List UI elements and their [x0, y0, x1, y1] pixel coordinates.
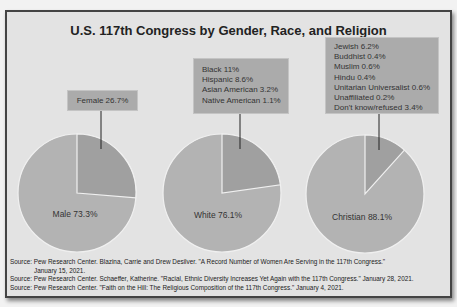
religion-label-box: Jewish 6.2% Buddhist 0.4% Muslim 0.6% Hi…: [325, 37, 439, 114]
source-line-2: Source: Pew Research Center. Schaeffer, …: [10, 275, 414, 284]
native-american-label: Native American 1.1%: [202, 96, 288, 106]
female-label-box: Female 26.7%: [67, 90, 138, 111]
race-pie: [163, 114, 281, 252]
buddhist-label: Buddhist 0.4%: [334, 52, 438, 62]
white-label: White 76.1%: [194, 210, 242, 220]
nonwhite-slice: [222, 134, 280, 193]
muslim-label: Muslim 0.6%: [334, 62, 438, 72]
asian-american-label: Asian American 3.2%: [202, 85, 288, 95]
source-line-3: Source: Pew Research Center. "Faith on t…: [10, 284, 414, 293]
religion-pie: [306, 114, 424, 253]
source-line-1: Source: Pew Research Center. Blazina, Ca…: [10, 258, 414, 267]
source-line-1-cont: January 15, 2021.: [10, 267, 414, 276]
female-label: Female 26.7%: [77, 96, 129, 105]
race-label-box: Black 11% Hispanic 8.6% Asian American 3…: [193, 58, 289, 114]
female-slice: [77, 134, 136, 198]
hindu-label: Hindu 0.4%: [334, 73, 438, 83]
jewish-label: Jewish 6.2%: [334, 42, 438, 52]
gender-pie: [18, 111, 136, 252]
unaffiliated-label: Unaffiliated 0.2%: [334, 93, 438, 103]
unitarian-label: Unitarian Universalist 0.6%: [334, 83, 438, 93]
dont-know-label: Don't know/refused 3.4%: [334, 103, 438, 113]
christian-label: Christian 88.1%: [332, 212, 392, 222]
male-label: Male 73.3%: [53, 209, 98, 219]
hispanic-label: Hispanic 8.6%: [202, 75, 288, 85]
sources: Source: Pew Research Center. Blazina, Ca…: [10, 258, 414, 292]
chart-frame: U.S. 117th Congress by Gender, Race, and…: [5, 10, 452, 298]
black-label: Black 11%: [202, 65, 288, 75]
